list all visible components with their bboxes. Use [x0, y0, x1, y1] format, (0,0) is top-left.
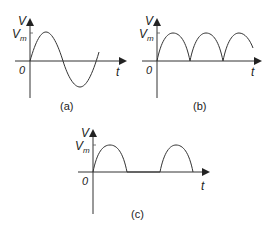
- x-axis-label: t: [116, 65, 120, 79]
- y-axis-label: V: [81, 126, 90, 140]
- half-rectified-wave: [93, 145, 193, 172]
- panel-caption: (c): [131, 208, 144, 220]
- origin-label: 0: [82, 175, 89, 187]
- vm-label: Vm: [139, 27, 154, 43]
- vm-label: Vm: [12, 27, 27, 43]
- panel-caption: (b): [193, 100, 206, 112]
- x-axis-label: t: [251, 65, 255, 79]
- panel-caption: (a): [60, 100, 73, 112]
- y-axis-label: V: [145, 14, 154, 28]
- panel-a: V Vm 0 t (a): [12, 14, 125, 112]
- rectified-wave: [157, 33, 253, 61]
- panel-c: V Vm 0 t (c): [75, 126, 208, 220]
- y-axis-label: V: [18, 14, 27, 28]
- panel-b: V Vm 0 t (b): [139, 14, 260, 112]
- origin-label: 0: [146, 64, 153, 76]
- origin-label: 0: [19, 64, 26, 76]
- sine-wave: [30, 32, 99, 87]
- vm-label: Vm: [75, 139, 90, 155]
- waveform-diagram: V Vm 0 t (a) V Vm 0 t (b) V Vm 0 t (c): [0, 0, 272, 237]
- x-axis-label: t: [201, 179, 205, 193]
